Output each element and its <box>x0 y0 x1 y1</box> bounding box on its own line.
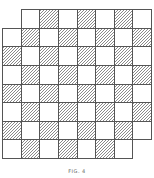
hatched-square <box>114 9 134 29</box>
white-square <box>39 139 59 159</box>
white-square <box>2 65 22 85</box>
hatched-square <box>95 65 115 85</box>
white-square <box>21 46 41 66</box>
white-square <box>58 84 78 104</box>
figure-caption: FIG. 4 <box>0 168 154 174</box>
hatched-square <box>77 121 97 141</box>
hatched-square <box>39 121 59 141</box>
white-square <box>39 102 59 122</box>
white-square <box>77 102 97 122</box>
white-square <box>39 65 59 85</box>
hatched-square <box>114 46 134 66</box>
hatched-square <box>58 65 78 85</box>
hatched-square <box>39 9 59 29</box>
white-square <box>21 121 41 141</box>
white-square <box>95 9 115 29</box>
hatched-square <box>114 84 134 104</box>
white-square <box>132 121 152 141</box>
hatched-square <box>77 46 97 66</box>
white-square <box>132 84 152 104</box>
white-square <box>95 84 115 104</box>
hatched-square <box>21 139 41 159</box>
hatched-square <box>95 139 115 159</box>
hatched-square <box>2 121 22 141</box>
white-square <box>114 65 134 85</box>
white-square <box>2 28 22 48</box>
hatched-square <box>58 139 78 159</box>
hatched-square <box>39 84 59 104</box>
hatched-square <box>132 28 152 48</box>
white-square <box>39 28 59 48</box>
hatched-square <box>77 84 97 104</box>
checkerboard <box>2 9 151 158</box>
hatched-square <box>132 65 152 85</box>
white-square <box>58 121 78 141</box>
white-square <box>132 46 152 66</box>
hatched-square <box>21 102 41 122</box>
hatched-square <box>114 121 134 141</box>
hatched-square <box>58 28 78 48</box>
white-square <box>114 102 134 122</box>
white-square <box>77 28 97 48</box>
white-square <box>2 139 22 159</box>
hatched-square <box>2 84 22 104</box>
hatched-square <box>21 28 41 48</box>
white-square <box>114 28 134 48</box>
white-square <box>77 65 97 85</box>
white-square <box>58 9 78 29</box>
white-square <box>114 139 134 159</box>
white-square <box>95 46 115 66</box>
hatched-square <box>21 65 41 85</box>
hatched-square <box>132 102 152 122</box>
hatched-square <box>95 28 115 48</box>
white-square <box>132 9 152 29</box>
white-square <box>21 84 41 104</box>
hatched-square <box>77 9 97 29</box>
white-square <box>58 46 78 66</box>
white-square <box>95 121 115 141</box>
white-square <box>2 102 22 122</box>
hatched-square <box>95 102 115 122</box>
white-square <box>21 9 41 29</box>
white-square <box>77 139 97 159</box>
hatched-square <box>58 102 78 122</box>
hatched-square <box>2 46 22 66</box>
hatched-square <box>39 46 59 66</box>
